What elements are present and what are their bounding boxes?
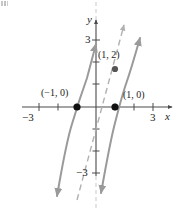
- x-tick-label-3: 3: [150, 112, 156, 123]
- graph-figure: −3 3 3 −3 x y (−1, 0) (1, 0) (1, 2): [0, 0, 180, 211]
- x-axis-label: x: [165, 111, 170, 122]
- y-axis-label: y: [87, 14, 92, 25]
- point-marker-1-0: [111, 103, 118, 110]
- x-tick-label-neg3: −3: [22, 112, 34, 123]
- right-curve: [101, 38, 140, 193]
- point-label-1-2: (1, 2): [98, 50, 120, 60]
- point-label-1-0: (1, 0): [123, 90, 145, 100]
- coordinate-plane: [0, 0, 180, 211]
- y-tick-label-3: 3: [85, 34, 91, 45]
- y-tick-label-neg3: −3: [76, 167, 88, 178]
- point-marker-neg1-0: [73, 103, 80, 110]
- point-label-neg1-0: (−1, 0): [41, 88, 68, 98]
- point-marker-1-2: [112, 66, 118, 72]
